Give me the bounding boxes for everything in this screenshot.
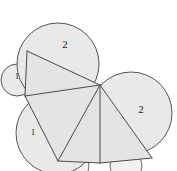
label-lower-radius-1: 1 — [31, 127, 36, 137]
label-right-radius-2: 2 — [138, 103, 144, 115]
label-left-radius-1: 1 — [15, 71, 20, 81]
label-top-radius-2: 2 — [62, 38, 68, 50]
geometric-figure-container: 2 2 1 1 — [0, 0, 177, 171]
geometric-figure-svg: 2 2 1 1 — [0, 0, 177, 171]
